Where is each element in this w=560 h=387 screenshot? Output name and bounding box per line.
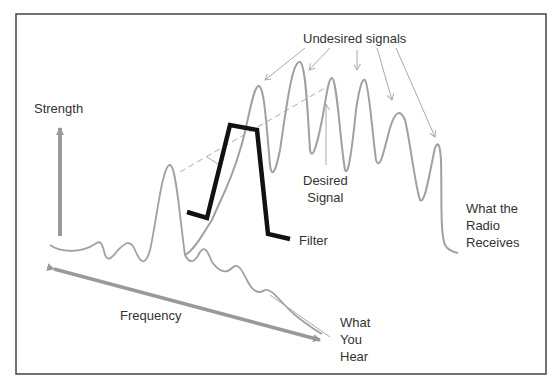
filter-shape (187, 125, 290, 239)
strength-label: Strength (34, 100, 83, 117)
desired-dashed-tick (207, 157, 218, 164)
diagram-canvas (0, 0, 560, 387)
heard-signal-curve (50, 165, 322, 334)
frequency-axis-arrow (54, 269, 320, 340)
diagram-border (16, 14, 546, 374)
undesired-arrow-2 (309, 48, 330, 70)
radio-receives-label: What the Radio Receives (466, 200, 519, 251)
undesired-arrow-5 (396, 48, 435, 137)
filter-label: Filter (299, 232, 328, 249)
what-you-hear-label: What You Hear (340, 314, 370, 365)
desired-signal-label: Desired Signal (303, 172, 348, 206)
undesired-arrow-1 (265, 48, 305, 80)
received-signal-curve (185, 62, 458, 255)
diagram: Strength Undesired signals Desired Signa… (0, 0, 560, 387)
undesired-arrow-4 (377, 48, 392, 100)
undesired-signals-label: Undesired signals (303, 30, 406, 47)
frequency-label: Frequency (120, 307, 181, 324)
